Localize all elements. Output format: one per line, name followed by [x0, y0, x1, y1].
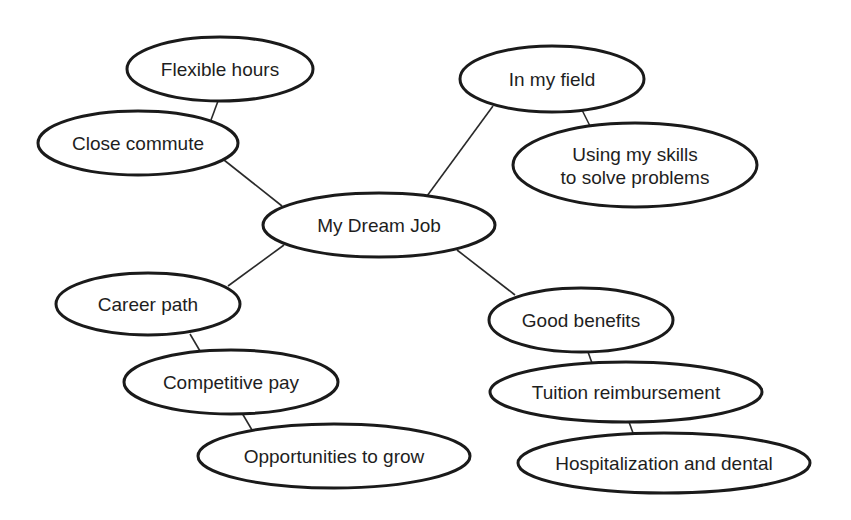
- node-label: Career path: [98, 294, 198, 315]
- connector-field-skills: [582, 110, 590, 126]
- connector-flex-commute: [211, 101, 218, 120]
- node-label: Good benefits: [522, 310, 640, 331]
- mind-map-nodes: My Dream JobFlexible hoursClose commuteI…: [38, 37, 810, 493]
- connector-dream-field: [427, 106, 493, 196]
- node-pay: Competitive pay: [124, 350, 338, 414]
- node-label: Hospitalization and dental: [555, 453, 773, 474]
- node-label: Tuition reimbursement: [532, 382, 721, 403]
- node-hospital: Hospitalization and dental: [518, 433, 810, 493]
- node-label: Close commute: [72, 133, 204, 154]
- node-label: Flexible hours: [161, 59, 279, 80]
- connector-career-pay: [190, 334, 200, 351]
- node-grow: Opportunities to grow: [198, 424, 470, 488]
- connector-dream-benefits: [457, 250, 515, 295]
- connector-benefits-tuition: [588, 352, 592, 363]
- node-field: In my field: [460, 46, 644, 112]
- node-flex: Flexible hours: [127, 37, 313, 101]
- mind-map-canvas: My Dream JobFlexible hoursClose commuteI…: [0, 0, 851, 520]
- ellipse-shape: [513, 123, 757, 207]
- node-label: to solve problems: [561, 167, 710, 188]
- node-tuition: Tuition reimbursement: [490, 362, 762, 422]
- node-commute: Close commute: [38, 111, 238, 175]
- connector-dream-career: [228, 245, 284, 286]
- node-skills: Using my skillsto solve problems: [513, 123, 757, 207]
- node-label: My Dream Job: [317, 215, 441, 236]
- node-career: Career path: [56, 273, 240, 335]
- connector-commute-dream: [224, 160, 282, 206]
- connector-pay-grow: [242, 413, 252, 430]
- node-label: In my field: [509, 69, 596, 90]
- connector-tuition-hospital: [629, 422, 633, 433]
- node-label: Opportunities to grow: [244, 446, 425, 467]
- node-label: Using my skills: [572, 144, 698, 165]
- node-benefits: Good benefits: [489, 288, 673, 352]
- node-label: Competitive pay: [163, 372, 300, 393]
- central-node: My Dream Job: [263, 193, 495, 257]
